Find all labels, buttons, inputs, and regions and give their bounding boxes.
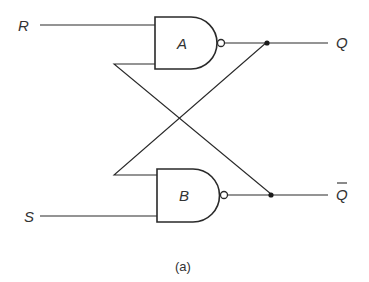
qbar-label: Q: [336, 186, 348, 203]
inverter-bubble-a: [218, 40, 225, 47]
r-label: R: [18, 17, 29, 34]
gate-b-label: B: [179, 187, 189, 204]
junction-dot-q: [264, 40, 269, 45]
inverter-bubble-b: [221, 192, 228, 199]
junction-dot-qbar: [268, 192, 273, 197]
sr-latch-diagram: R S A B Q Q (a): [0, 0, 369, 282]
figure-caption: (a): [175, 259, 191, 274]
q-label: Q: [336, 34, 348, 51]
s-label: S: [24, 208, 34, 225]
gate-a-label: A: [176, 35, 187, 52]
